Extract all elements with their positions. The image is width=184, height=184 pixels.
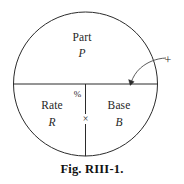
region-label-rate: Rate [41, 100, 62, 112]
plus-annotation-marker: + [165, 54, 172, 66]
region-label-part: Part [73, 32, 92, 44]
percent-operator-symbol: % [74, 90, 82, 99]
percentage-circle-diagram [0, 0, 184, 184]
region-symbol-part: P [78, 48, 85, 60]
region-label-base: Base [108, 100, 131, 112]
region-symbol-base: B [115, 117, 122, 129]
annotation-arrowhead-icon [129, 80, 135, 86]
multiply-operator-symbol: × [82, 114, 90, 124]
annotation-curved-arrow-shaft [131, 58, 166, 82]
figure-caption: Fig. RIII-1. [0, 163, 184, 177]
region-symbol-rate: R [48, 117, 55, 129]
figure-container: Part P Rate R Base B % × + Fig. RIII-1. [0, 0, 184, 184]
